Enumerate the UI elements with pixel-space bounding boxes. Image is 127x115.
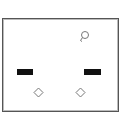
diamond-icon-left: [33, 87, 44, 98]
faceplate-frame: [2, 18, 119, 112]
diamond-icon-right: [75, 87, 86, 98]
right-slot: [84, 69, 101, 75]
bulb-icon: [78, 30, 90, 44]
left-slot: [17, 69, 33, 75]
